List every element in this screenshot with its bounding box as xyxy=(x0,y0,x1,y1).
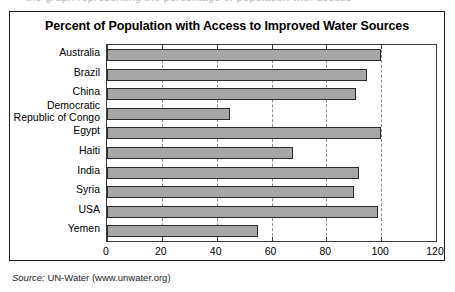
plot-area xyxy=(106,44,437,242)
bar-row xyxy=(107,84,436,104)
x-axis-tick-label: 40 xyxy=(210,245,222,257)
category-label-line: Australia xyxy=(59,47,100,59)
chart-figure-frame: Percent of Population with Access to Imp… xyxy=(9,11,445,261)
category-label-line: Egypt xyxy=(73,125,100,137)
bar[interactable] xyxy=(107,108,230,120)
category-label: Australia xyxy=(59,47,100,59)
bar-row xyxy=(107,182,436,202)
x-axis-tick xyxy=(436,237,437,241)
bar[interactable] xyxy=(107,225,258,237)
category-label-line: Yemen xyxy=(68,223,100,235)
bar[interactable] xyxy=(107,69,367,81)
bar-row xyxy=(107,45,436,65)
source-prefix: Source: xyxy=(12,272,45,283)
chart-title: Percent of Population with Access to Imp… xyxy=(10,19,444,33)
category-label: Egypt xyxy=(73,125,100,137)
cropped-text-above-figure: the graph representing the percentage of… xyxy=(0,0,455,11)
x-axis-tick-label: 0 xyxy=(103,245,109,257)
x-axis-tick xyxy=(436,45,437,49)
category-label-line: Democratic xyxy=(14,100,100,112)
category-label-line: Republic of Congo xyxy=(14,112,100,124)
x-axis-tick-label: 80 xyxy=(319,245,331,257)
bar[interactable] xyxy=(107,206,378,218)
category-label: DemocraticRepublic of Congo xyxy=(14,100,100,123)
x-axis-tick-label: 100 xyxy=(371,245,389,257)
category-label: India xyxy=(77,165,100,177)
bar-row xyxy=(107,104,436,124)
category-label: China xyxy=(73,86,100,98)
bar-row xyxy=(107,123,436,143)
category-label: Brazil xyxy=(74,67,100,79)
category-label: USA xyxy=(78,204,100,216)
bar-row xyxy=(107,143,436,163)
bar[interactable] xyxy=(107,186,354,198)
bar-row xyxy=(107,221,436,241)
source-note: Source: UN-Water (www.unwater.org) xyxy=(12,272,171,283)
category-label: Yemen xyxy=(68,223,100,235)
source-text: UN-Water (www.unwater.org) xyxy=(45,272,171,283)
cropped-text-line: the graph representing the percentage of… xyxy=(26,0,352,3)
category-label: Haiti xyxy=(79,145,100,157)
bar[interactable] xyxy=(107,167,359,179)
bar-row xyxy=(107,163,436,183)
category-label-line: USA xyxy=(78,204,100,216)
category-label-line: India xyxy=(77,165,100,177)
category-label-line: Haiti xyxy=(79,145,100,157)
x-axis-tick-label: 20 xyxy=(155,245,167,257)
bar[interactable] xyxy=(107,147,293,159)
bar[interactable] xyxy=(107,127,381,139)
x-axis-tick-label: 60 xyxy=(265,245,277,257)
x-axis-tick-label: 120 xyxy=(426,245,444,257)
bar-row xyxy=(107,202,436,222)
bar[interactable] xyxy=(107,49,381,61)
category-label-line: Brazil xyxy=(74,67,100,79)
category-label-line: Syria xyxy=(76,184,100,196)
bar[interactable] xyxy=(107,88,356,100)
category-label: Syria xyxy=(76,184,100,196)
bar-row xyxy=(107,65,436,85)
category-label-line: China xyxy=(73,86,100,98)
